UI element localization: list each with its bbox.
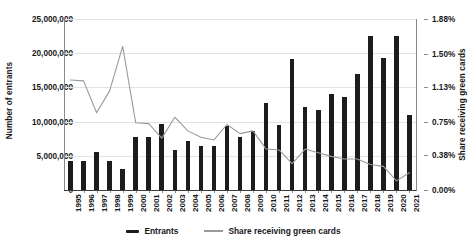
y-axis-right-tick-label: 0.00% — [432, 186, 472, 195]
legend-label-entrants: Entrants — [144, 226, 178, 236]
x-axis-tick-label: 2008 — [243, 194, 252, 212]
x-axis-tick-label: 2003 — [178, 194, 187, 212]
y-axis-right-tick-label: 1.50% — [432, 49, 472, 58]
y-axis-right-line — [416, 19, 417, 191]
y-axis-right-tick-label: 1.88% — [432, 15, 472, 24]
tickmark — [424, 19, 428, 20]
legend-item-entrants: Entrants — [126, 226, 178, 236]
x-axis-tick-label: 2005 — [204, 194, 213, 212]
x-axis-tick-label: 2018 — [373, 194, 382, 212]
x-axis-tick-label: 2021 — [412, 194, 421, 212]
tickmark — [424, 87, 428, 88]
x-axis-tick-label: 2000 — [139, 194, 148, 212]
tickmark — [424, 54, 428, 55]
y-axis-left-line — [64, 19, 65, 191]
x-axis-tick-label: 2011 — [282, 195, 291, 212]
tickmark — [424, 190, 428, 191]
x-axis-tick-label: 1995 — [74, 194, 83, 212]
x-axis-line — [64, 190, 416, 191]
x-axis-tick-label: 1999 — [126, 194, 135, 212]
legend-label-share-receiving-green-cards: Share receiving green cards — [228, 226, 340, 236]
x-axis-tick-label: 2020 — [399, 194, 408, 212]
legend-item-share-receiving-green-cards: Share receiving green cards — [204, 226, 340, 236]
x-axis-tick-label: 2010 — [269, 194, 278, 212]
y-axis-right-tick-label: 0.38% — [432, 151, 472, 160]
x-axis-tick-label: 2012 — [295, 194, 304, 212]
y-axis-right-tick-label: 0.75% — [432, 117, 472, 126]
x-axis-tick-label: 1996 — [87, 194, 96, 212]
x-axis-tick-label: 2019 — [386, 194, 395, 212]
line-path — [71, 46, 410, 181]
tickmark — [424, 122, 428, 123]
x-axis-tick-label: 1998 — [113, 194, 122, 212]
x-axis-tick-label: 2001 — [152, 194, 161, 212]
line-series-share-receiving-green-cards — [64, 19, 416, 190]
x-axis-tick-label: 2006 — [217, 194, 226, 212]
y-axis-right-tick-label: 1.13% — [432, 83, 472, 92]
chart-legend: Entrants Share receiving green cards — [0, 226, 467, 236]
bar-swatch-icon — [126, 230, 139, 233]
x-axis-tick-label: 2013 — [308, 194, 317, 212]
x-axis-tick-label: 2007 — [230, 194, 239, 212]
line-swatch-icon — [204, 230, 223, 232]
x-axis-tick-label: 2015 — [334, 194, 343, 212]
x-axis-tick-label: 1997 — [100, 194, 109, 212]
x-axis-tick-label: 2004 — [191, 194, 200, 212]
x-axis-tick-label: 2014 — [321, 194, 330, 212]
x-axis-tick-label: 2002 — [165, 194, 174, 212]
plot-area — [64, 19, 416, 190]
x-axis-tick-label: 2017 — [360, 194, 369, 212]
x-axis-tick-label: 2016 — [347, 194, 356, 212]
y-axis-right-ticks: 1.88%1.50%1.13%0.75%0.38%0.00% — [424, 0, 470, 245]
x-axis-tick-label: 2009 — [256, 194, 265, 212]
tickmark — [424, 155, 428, 156]
